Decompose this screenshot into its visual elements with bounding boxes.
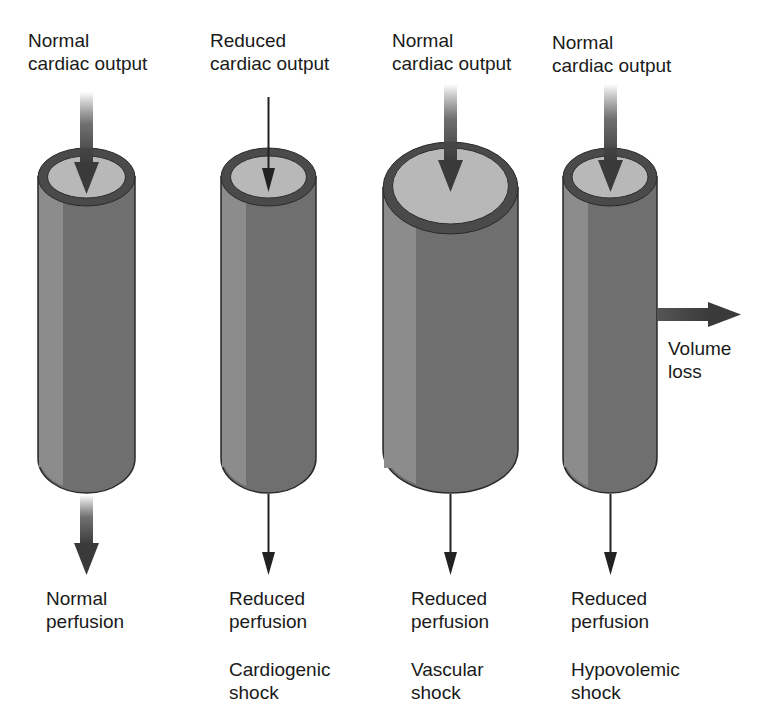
bottom-label-line: perfusion [571, 610, 649, 633]
top-label-line: Normal [552, 31, 671, 54]
bottom-label-line: perfusion [46, 610, 124, 633]
side-label-line: Volume [668, 337, 731, 360]
bottom-label-normal: Normal perfusion [46, 587, 124, 633]
top-label-line: Normal [392, 29, 511, 52]
shock-label-line: shock [229, 681, 330, 704]
outflow-arrow-thin-hypovolemic [604, 494, 617, 575]
outflow-arrow-thin-cardiogenic [262, 494, 275, 575]
bottom-label-vascular: Reduced perfusion [411, 587, 489, 633]
top-label-vascular: Normal cardiac output [392, 29, 511, 75]
shock-label-hypovolemic: Hypovolemic shock [571, 658, 680, 704]
top-label-line: cardiac output [210, 52, 329, 75]
bottom-label-cardiogenic: Reduced perfusion [229, 587, 307, 633]
bottom-label-line: Reduced [229, 587, 307, 610]
outflow-arrow-thick-normal [74, 495, 99, 575]
vessel-normal [38, 148, 135, 493]
shock-label-line: Hypovolemic [571, 658, 680, 681]
shock-label-line: shock [411, 681, 484, 704]
shock-label-vascular: Vascular shock [411, 658, 484, 704]
outflow-arrow-thin-vascular [444, 494, 457, 575]
bottom-label-hypovolemic: Reduced perfusion [571, 587, 649, 633]
shock-label-line: Cardiogenic [229, 658, 330, 681]
vessel-vascular-dilated [383, 142, 518, 493]
bottom-label-line: perfusion [411, 610, 489, 633]
vessel-cardiogenic [221, 148, 316, 493]
bottom-label-line: perfusion [229, 610, 307, 633]
vessel-hypovolemic [563, 148, 657, 493]
bottom-label-line: Reduced [571, 587, 649, 610]
top-label-line: cardiac output [392, 52, 511, 75]
bottom-label-line: Reduced [411, 587, 489, 610]
shock-types-diagram: Normal cardiac output Reduced cardiac ou… [0, 0, 769, 719]
side-label-line: loss [668, 360, 731, 383]
shock-label-line: shock [571, 681, 680, 704]
top-label-normal: Normal cardiac output [28, 29, 147, 75]
shock-label-line: Vascular [411, 658, 484, 681]
bottom-label-line: Normal [46, 587, 124, 610]
top-label-line: Normal [28, 29, 147, 52]
shock-label-cardiogenic: Cardiogenic shock [229, 658, 330, 704]
top-label-line: cardiac output [552, 54, 671, 77]
top-label-line: Reduced [210, 29, 329, 52]
top-label-cardiogenic: Reduced cardiac output [210, 29, 329, 75]
top-label-hypovolemic: Normal cardiac output [552, 31, 671, 77]
top-label-line: cardiac output [28, 52, 147, 75]
volume-loss-arrow [657, 302, 741, 327]
side-label-volume-loss: Volume loss [668, 337, 731, 383]
